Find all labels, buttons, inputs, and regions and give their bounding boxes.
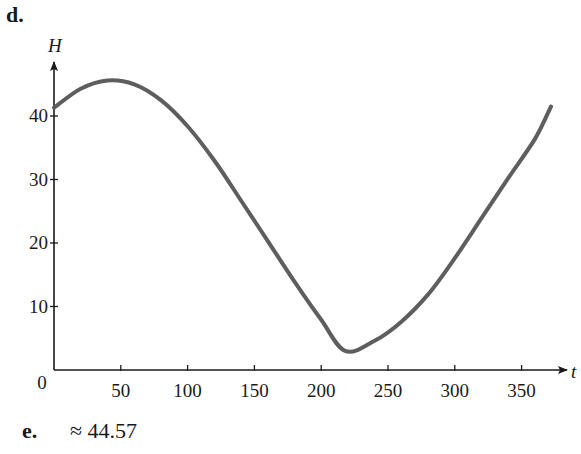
x-tick-label: 300 <box>441 380 470 401</box>
part-e-label: e. <box>22 418 37 444</box>
x-tick-label: 50 <box>111 380 130 401</box>
x-tick-label: 350 <box>507 380 536 401</box>
y-tick-label: 10 <box>29 296 48 317</box>
answer-e: ≈ 44.57 <box>70 418 137 444</box>
y-tick-label: 20 <box>29 232 48 253</box>
x-tick-label: 250 <box>374 380 403 401</box>
y-tick-label: 30 <box>29 169 48 190</box>
y-axis-title: H <box>47 35 63 56</box>
data-curve <box>54 80 551 351</box>
x-tick-label: 150 <box>240 380 269 401</box>
x-tick-label: 200 <box>307 380 336 401</box>
y-tick-label: 40 <box>29 105 48 126</box>
chart: 05010015020025030035010203040 H t <box>0 0 581 454</box>
x-axis-title: t <box>571 361 577 382</box>
x-tick-label: 0 <box>37 372 47 393</box>
axes: 05010015020025030035010203040 <box>29 62 567 401</box>
x-tick-label: 100 <box>173 380 202 401</box>
